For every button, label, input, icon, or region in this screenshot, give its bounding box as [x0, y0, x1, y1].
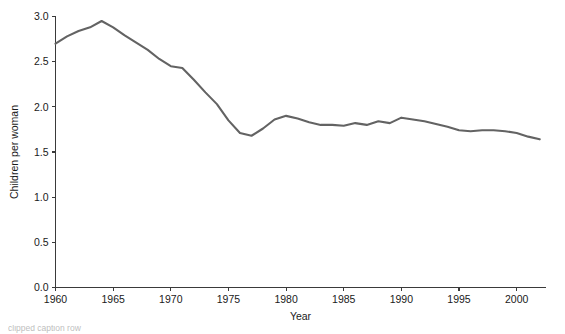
tick-marks-group [52, 17, 517, 292]
axes-group [56, 16, 546, 288]
y-tick-label: 2.0 [34, 101, 49, 113]
chart-canvas: 196019651970197519801985199019952000 0.0… [0, 0, 565, 334]
y-tick-label: 0.5 [34, 236, 49, 248]
x-tick-label: 1965 [101, 293, 125, 305]
x-axis-title: Year [290, 310, 312, 322]
data-series-group [56, 21, 540, 139]
x-tick-label: 1985 [332, 293, 356, 305]
x-tick-label: 2000 [505, 293, 529, 305]
y-tick-label: 1.5 [34, 146, 49, 158]
y-tick-labels-group: 0.00.51.01.52.02.53.0 [34, 10, 49, 293]
x-tick-labels-group: 196019651970197519801985199019952000 [44, 293, 529, 305]
x-tick-label: 1970 [159, 293, 183, 305]
y-tick-label: 1.0 [34, 191, 49, 203]
x-tick-label: 1995 [447, 293, 471, 305]
fertility-rate-line-chart: 196019651970197519801985199019952000 0.0… [0, 0, 565, 334]
x-tick-label: 1975 [217, 293, 241, 305]
y-tick-label: 2.5 [34, 55, 49, 67]
y-tick-label: 3.0 [34, 10, 49, 22]
x-tick-label: 1980 [274, 293, 298, 305]
x-tick-label: 1960 [44, 293, 68, 305]
y-axis-title: Children per woman [8, 105, 20, 199]
x-tick-label: 1990 [390, 293, 414, 305]
y-tick-label: 0.0 [34, 281, 49, 293]
data-line-children-per-woman [56, 21, 540, 139]
